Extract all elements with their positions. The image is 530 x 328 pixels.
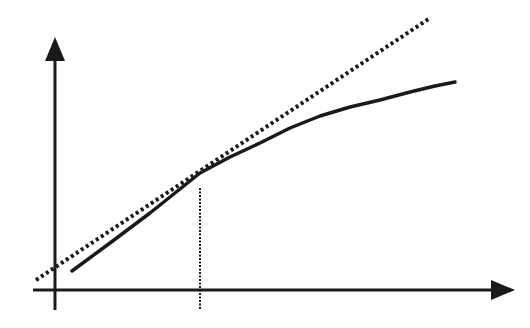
tangent-line-diagram xyxy=(0,0,530,328)
background xyxy=(0,0,530,328)
